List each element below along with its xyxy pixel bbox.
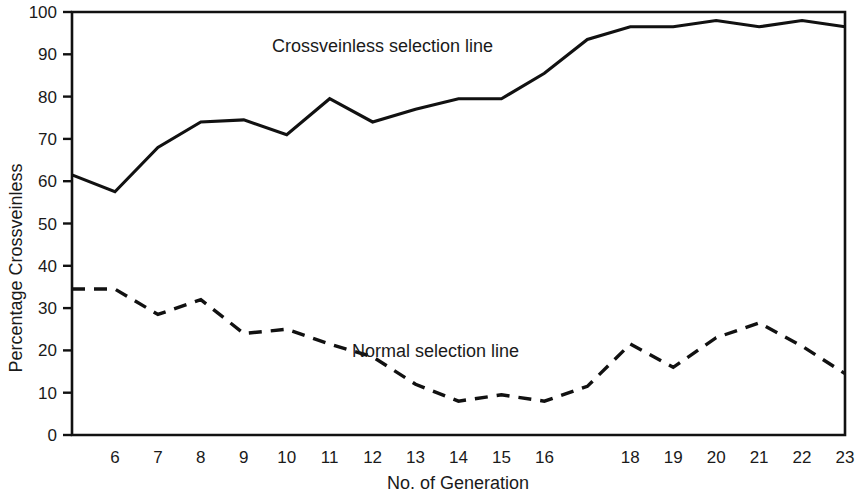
x-tick-label: 23: [836, 448, 855, 467]
y-axis-ticks: 0102030405060708090100: [29, 3, 72, 445]
y-tick-label: 20: [38, 341, 57, 360]
series-label-normal: Normal selection line: [352, 341, 519, 361]
x-tick-label: 14: [449, 448, 468, 467]
x-tick-label: 12: [363, 448, 382, 467]
series-label-crossveinless: Crossveinless selection line: [272, 36, 493, 56]
x-tick-label: 18: [621, 448, 640, 467]
x-tick-label: 7: [153, 448, 162, 467]
y-tick-label: 60: [38, 172, 57, 191]
x-tick-label: 8: [196, 448, 205, 467]
y-tick-label: 80: [38, 88, 57, 107]
series-annotations: Crossveinless selection lineNormal selec…: [272, 36, 519, 361]
x-tick-label: 13: [406, 448, 425, 467]
plot-frame: [72, 12, 845, 435]
x-tick-label: 20: [707, 448, 726, 467]
x-tick-label: 11: [321, 448, 339, 467]
x-tick-label: 16: [535, 448, 554, 467]
x-tick-label: 19: [664, 448, 683, 467]
x-tick-label: 22: [793, 448, 812, 467]
y-tick-label: 90: [38, 45, 57, 64]
y-tick-label: 10: [38, 384, 57, 403]
y-tick-label: 70: [38, 130, 57, 149]
y-tick-label: 100: [29, 3, 57, 22]
x-tick-label: 9: [239, 448, 248, 467]
plot-border: [72, 12, 845, 435]
y-tick-label: 40: [38, 257, 57, 276]
y-tick-label: 50: [38, 215, 57, 234]
x-axis-ticks: 678910111213141516181920212223: [110, 448, 854, 467]
line-chart: 0102030405060708090100 67891011121314151…: [0, 0, 858, 496]
x-tick-label: 21: [750, 448, 769, 467]
x-tick-label: 10: [277, 448, 296, 467]
x-tick-label: 15: [492, 448, 511, 467]
chart-figure: 0102030405060708090100 67891011121314151…: [0, 0, 858, 496]
x-axis-title: No. of Generation: [387, 473, 529, 493]
y-tick-label: 30: [38, 299, 57, 318]
x-tick-label: 6: [110, 448, 119, 467]
y-tick-label: 0: [48, 426, 57, 445]
y-axis-title: Percentage Crossveinless: [6, 163, 26, 372]
